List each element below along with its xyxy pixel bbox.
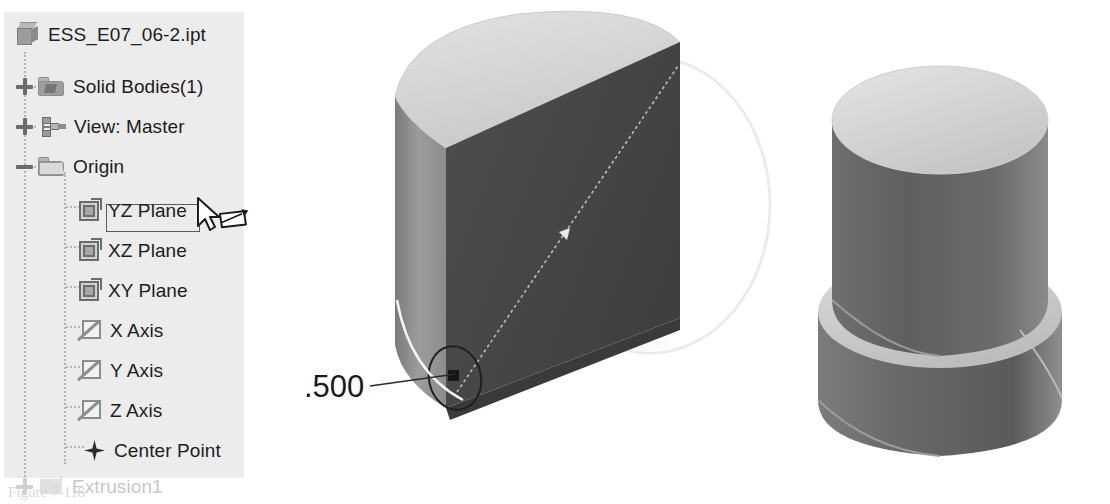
dimension-value-label[interactable]: .500 <box>304 369 364 404</box>
tree-item-label: X Axis <box>110 320 163 342</box>
part-cube-icon <box>14 22 40 48</box>
origin-folder-icon <box>38 156 66 178</box>
half-cylinder-section-model[interactable] <box>370 11 770 420</box>
tree-item-label: Solid Bodies(1) <box>73 76 203 98</box>
tree-item-xy-plane[interactable]: XY Plane <box>78 272 188 310</box>
origin-plane-icon <box>78 238 104 264</box>
rename-input-value[interactable]: YZ Plane <box>108 200 187 222</box>
tree-expand-view-master[interactable] <box>16 118 33 135</box>
tree-expand-solid-bodies[interactable] <box>16 78 33 95</box>
tree-item-center-point[interactable]: Center Point <box>82 432 221 470</box>
tree-item-z-axis[interactable]: Z Axis <box>78 392 162 430</box>
model-browser-panel: ESS_E07_06-2.ipt Solid Bodies(1) View: M… <box>4 12 244 478</box>
tree-collapse-origin[interactable] <box>16 158 33 175</box>
viewport-canvas: .500 <box>250 0 1110 504</box>
tree-item-label: Center Point <box>114 440 221 462</box>
tree-item-solid-bodies[interactable]: Solid Bodies(1) <box>38 68 203 106</box>
cursor-arrow-icon <box>198 198 219 230</box>
tree-item-yz-plane[interactable]: YZ Plane <box>78 192 187 230</box>
tree-item-x-axis[interactable]: X Axis <box>78 312 163 350</box>
origin-axis-icon <box>78 398 104 424</box>
mouse-cursor-with-pencil <box>196 196 250 244</box>
stepped-cylinder-model[interactable] <box>818 66 1062 456</box>
screenshot-root: ESS_E07_06-2.ipt Solid Bodies(1) View: M… <box>0 0 1110 504</box>
tree-item-label: Extrusion1 <box>72 476 163 498</box>
tree-item-origin[interactable]: Origin <box>38 148 124 186</box>
stepped-cylinder-top-face <box>832 66 1048 174</box>
tree-item-view-master[interactable]: View: Master <box>38 108 185 146</box>
figure-caption: Figure 7-118 <box>8 484 85 501</box>
tree-item-label: XZ Plane <box>108 240 187 262</box>
tree-connector-vertical-root <box>24 52 26 484</box>
tree-item-label: Y Axis <box>110 360 163 382</box>
tree-item-xz-plane[interactable]: XZ Plane <box>78 232 187 270</box>
tree-item-y-axis[interactable]: Y Axis <box>78 352 163 390</box>
center-point-icon <box>82 438 108 464</box>
tree-item-label: ESS_E07_06-2.ipt <box>48 24 206 46</box>
tree-item-part-document[interactable]: ESS_E07_06-2.ipt <box>14 16 206 54</box>
tree-item-label: Z Axis <box>110 400 162 422</box>
origin-plane-icon <box>78 278 104 304</box>
solid-bodies-folder-icon <box>38 76 66 98</box>
origin-axis-icon <box>78 318 104 344</box>
tree-item-label: XY Plane <box>108 280 188 302</box>
tree-connector-vertical-origin <box>64 172 66 464</box>
tree-item-label: Origin <box>73 156 124 178</box>
graphics-viewport[interactable]: .500 <box>250 0 1110 504</box>
tree-item-label: View: Master <box>74 116 185 138</box>
rename-pencil-icon <box>216 202 250 233</box>
origin-axis-icon <box>78 358 104 384</box>
origin-plane-icon <box>78 198 104 224</box>
view-representation-icon <box>38 115 68 139</box>
